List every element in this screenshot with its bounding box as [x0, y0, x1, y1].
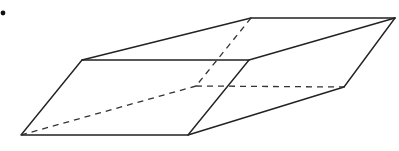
hidden-edge-back-left [196, 18, 251, 86]
hidden-edge-back-bottom [196, 86, 344, 87]
edge-top-left [82, 18, 251, 60]
hidden-edge-bottom-left [21, 86, 196, 135]
front-face [21, 60, 249, 135]
edge-bottom-right [188, 87, 344, 135]
prism-diagram [0, 0, 399, 151]
bullet-dot [1, 11, 6, 16]
edge-back-right [344, 18, 395, 87]
edge-top-right [249, 18, 395, 60]
